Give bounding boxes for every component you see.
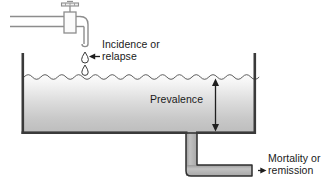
label-mortality-or-remission: Mortality or remission [268, 153, 321, 176]
label-incidence-or-relapse: Incidence or relapse [102, 39, 160, 62]
mortality-arrow [258, 168, 267, 174]
water-drop-lower [82, 65, 88, 75]
incidence-arrow [89, 54, 100, 60]
diagram-canvas: Incidence or relapse Prevalence Mortalit… [0, 0, 325, 189]
water-fill [24, 76, 254, 133]
label-prevalence: Prevalence [150, 94, 203, 106]
drain-pipe [186, 133, 252, 176]
water-drop-upper [82, 52, 89, 63]
faucet-icon [62, 1, 79, 33]
